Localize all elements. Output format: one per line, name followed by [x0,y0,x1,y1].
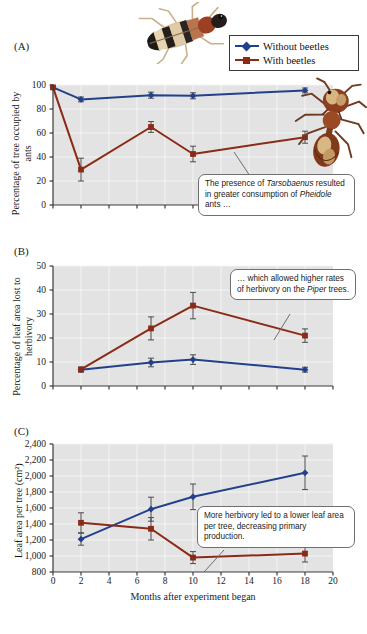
data-point-square [148,326,154,332]
panel-c-letter: (C) [14,425,29,437]
pheidole-ant-photo [291,76,367,180]
xtick-16: 16 [267,576,287,586]
xtick-10: 10 [183,576,203,586]
panel-c-ytick-1200: 1,200 [16,535,46,545]
data-point-square [190,303,196,309]
panel-c-ytick-2000: 2,000 [16,471,46,481]
xtick-20: 20 [323,576,343,586]
xtick-0: 0 [43,576,63,586]
xtick-2: 2 [71,576,91,586]
panel-c-ytick-1600: 1,600 [16,503,46,513]
legend-key-square-icon [234,54,260,66]
callout-c-leader-icon [198,548,238,574]
panel-c-ytick-2200: 2,200 [16,455,46,465]
callout-b-leader-icon [268,312,302,342]
panel-a-ytick-100: 100 [24,80,46,90]
xtick-14: 14 [239,576,259,586]
data-point-diamond [190,92,197,99]
legend-label-with-beetles: With beetles [263,55,315,66]
xtick-6: 6 [127,576,147,586]
panel-c-ytick-1400: 1,400 [16,519,46,529]
callout-b: … which allowed higher rates of herbivor… [230,269,356,300]
data-point-square [78,367,84,373]
data-point-square [148,124,154,130]
callout-a: The presence of Tarsobaenus resulted in … [198,174,355,216]
panel-b-ytick-0: 0 [24,381,46,391]
data-point-diamond [148,506,155,513]
xtick-12: 12 [211,576,231,586]
panel-b-ytick-10: 10 [24,357,46,367]
data-point-diamond [148,92,155,99]
data-point-square [148,526,154,532]
figure-root: Without beetles With beetles (A) Percent… [0,0,367,634]
panel-c-ytick-1800: 1,800 [16,487,46,497]
data-point-diamond [148,359,155,366]
panel-c-ytick-2400: 2,400 [16,439,46,449]
data-point-square [78,167,84,173]
series-line-without-beetles [53,87,305,99]
data-point-square [190,151,196,157]
data-point-diamond [302,469,309,476]
data-point-square [302,333,308,339]
panel-c-ytick-800: 800 [16,567,46,577]
data-point-diamond [78,536,85,543]
legend-item-without-beetles: Without beetles [234,39,353,53]
panel-b-ytick-40: 40 [24,285,46,295]
panel-a-ytick-20: 20 [24,176,46,186]
data-point-square [302,551,308,557]
panel-a-ytick-60: 60 [24,128,46,138]
tarsobaenus-beetle-photo [128,2,236,64]
panel-b-ytick-50: 50 [24,261,46,271]
panel-a-ytick-40: 40 [24,152,46,162]
legend-item-with-beetles: With beetles [234,53,353,67]
panel-b-ytick-30: 30 [24,309,46,319]
xtick-8: 8 [155,576,175,586]
data-point-square [78,520,84,526]
data-point-diamond [190,493,197,500]
panel-b-letter: (B) [14,245,29,257]
legend-key-diamond-icon [234,40,260,52]
panel-a-ytick-80: 80 [24,104,46,114]
panel-a-ytick-0: 0 [24,200,46,210]
data-point-square [190,555,196,561]
panel-c-ytick-1000: 1,000 [16,551,46,561]
x-axis-label: Months after experiment began [53,591,333,602]
panel-a-letter: (A) [14,40,29,52]
xtick-4: 4 [99,576,119,586]
panel-b-ytick-20: 20 [24,333,46,343]
xtick-18: 18 [295,576,315,586]
legend: Without beetles With beetles [229,35,359,71]
legend-label-without-beetles: Without beetles [263,41,329,52]
callout-c: More herbivory led to a lower leaf area … [197,506,355,548]
